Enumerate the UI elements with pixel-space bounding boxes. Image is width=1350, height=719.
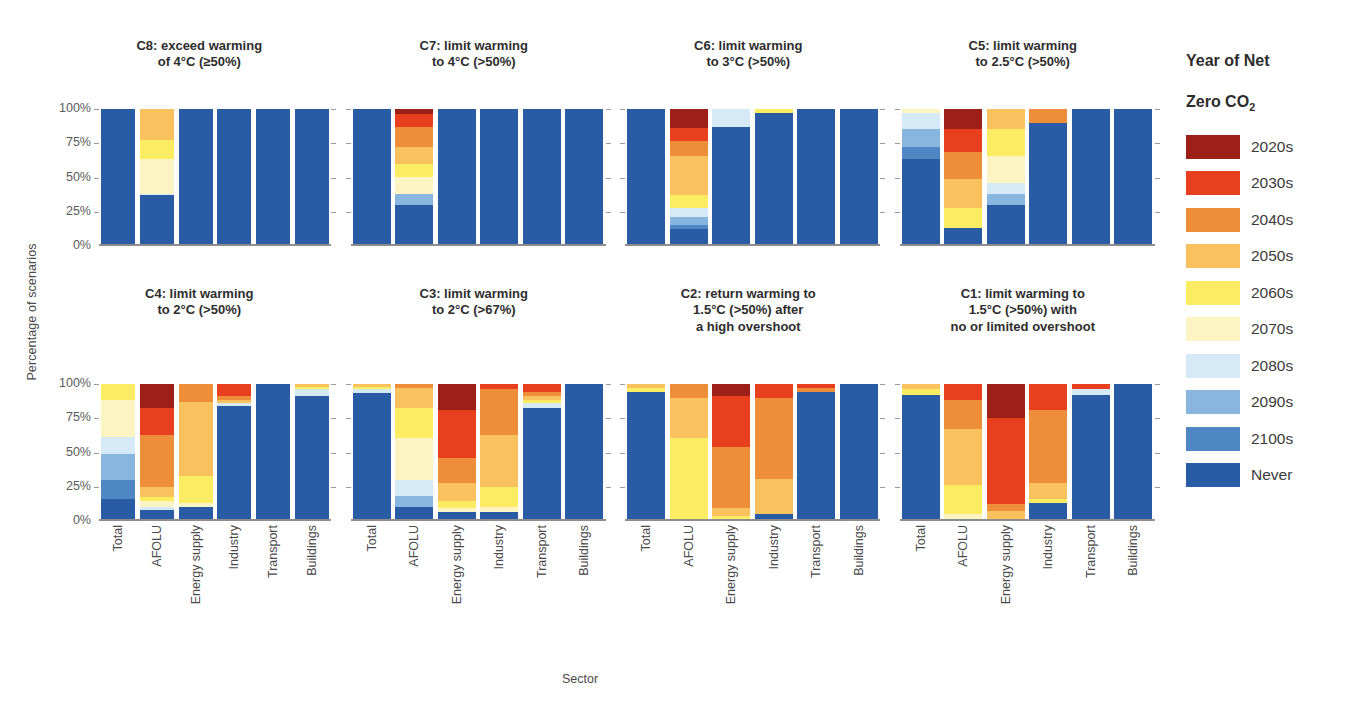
bar-segment-2090s (395, 496, 433, 507)
bar-slot (670, 384, 708, 519)
stacked-bar[interactable] (1114, 384, 1152, 519)
bar-slot (295, 384, 329, 519)
stacked-bar[interactable] (1029, 109, 1067, 244)
stacked-bar[interactable] (256, 384, 290, 519)
bar-segment-never (1114, 109, 1152, 244)
stacked-bar[interactable] (480, 109, 518, 244)
axis-tick-mark (880, 178, 885, 179)
stacked-bar[interactable] (944, 384, 982, 519)
stacked-bar[interactable] (670, 109, 708, 244)
stacked-bar[interactable] (179, 109, 213, 244)
legend-item-2060s[interactable]: 2060s (1186, 275, 1350, 312)
bar-segment-2060s (944, 485, 982, 513)
stacked-bar[interactable] (295, 384, 329, 519)
bar-segment-never (256, 109, 290, 244)
legend-item-2050s[interactable]: 2050s (1186, 238, 1350, 275)
axis-tick-mark (880, 143, 885, 144)
legend-item-2040s[interactable]: 2040s (1186, 202, 1350, 239)
axis-tick-mark (606, 453, 611, 454)
stacked-bar[interactable] (1072, 384, 1110, 519)
stacked-bar[interactable] (353, 109, 391, 244)
x-axis-ticks: TotalAFOLUEnergy supplyIndustryTransport… (351, 523, 606, 643)
bar-slot (1114, 109, 1152, 244)
bar-segment-2090s (902, 129, 940, 147)
bar-segment-2020s (987, 384, 1025, 418)
stacked-bar[interactable] (840, 109, 878, 244)
x-tick-label: Total (365, 525, 379, 551)
stacked-bar[interactable] (712, 384, 750, 519)
bar-slot (712, 384, 750, 519)
panel-C3: C3: limit warming to 2°C (>67%)TotalAFOL… (337, 280, 612, 580)
bar-slot (101, 109, 135, 244)
bar-group (99, 109, 331, 244)
stacked-bar[interactable] (353, 384, 391, 519)
plot-area-C3: TotalAFOLUEnergy supplyIndustryTransport… (351, 384, 606, 521)
stacked-bar[interactable] (755, 384, 793, 519)
stacked-bar[interactable] (712, 109, 750, 244)
bar-segment-2060s (712, 516, 750, 519)
stacked-bar[interactable] (565, 109, 603, 244)
stacked-bar[interactable] (395, 109, 433, 244)
stacked-bar[interactable] (902, 109, 940, 244)
stacked-bar[interactable] (295, 109, 329, 244)
stacked-bar[interactable] (987, 109, 1025, 244)
stacked-bar[interactable] (670, 384, 708, 519)
bar-segment-2050s (140, 109, 174, 140)
stacked-bar[interactable] (840, 384, 878, 519)
legend-item-2080s[interactable]: 2080s (1186, 348, 1350, 385)
stacked-bar[interactable] (1114, 109, 1152, 244)
stacked-bar[interactable] (523, 109, 561, 244)
bar-segment-2040s (944, 152, 982, 179)
stacked-bar[interactable] (256, 109, 290, 244)
legend-swatch-icon (1186, 390, 1240, 414)
stacked-bar[interactable] (1029, 384, 1067, 519)
stacked-bar[interactable] (797, 384, 835, 519)
stacked-bar[interactable] (902, 384, 940, 519)
stacked-bar[interactable] (217, 384, 251, 519)
stacked-bar[interactable] (438, 384, 476, 519)
stacked-bar[interactable] (565, 384, 603, 519)
stacked-bar[interactable] (101, 384, 135, 519)
legend-swatch-icon (1186, 281, 1240, 305)
bar-segment-2080s (295, 389, 329, 396)
panel-C4: C4: limit warming to 2°C (>50%)100%75%50… (62, 280, 337, 580)
legend-title-line1: Year of Net (1186, 52, 1270, 69)
bar-slot (987, 384, 1025, 519)
legend-item-2070s[interactable]: 2070s (1186, 311, 1350, 348)
plot-area-C6: TotalAFOLUEnergy supplyIndustryTransport… (625, 109, 880, 246)
panel-C6: C6: limit warming to 3°C (>50%)TotalAFOL… (611, 18, 886, 318)
stacked-bar[interactable] (523, 384, 561, 519)
stacked-bar[interactable] (395, 384, 433, 519)
axis-tick-mark (880, 109, 885, 110)
stacked-bar[interactable] (438, 109, 476, 244)
legend-item-2100s[interactable]: 2100s (1186, 421, 1350, 458)
panel-title-C8: C8: exceed warming of 4°C (≥50%) (62, 38, 337, 71)
legend-item-2030s[interactable]: 2030s (1186, 165, 1350, 202)
stacked-bar[interactable] (944, 109, 982, 244)
legend-item-2020s[interactable]: 2020s (1186, 129, 1350, 166)
stacked-bar[interactable] (1072, 109, 1110, 244)
bar-slot (140, 109, 174, 244)
stacked-bar[interactable] (140, 384, 174, 519)
legend-item-2090s[interactable]: 2090s (1186, 384, 1350, 421)
stacked-bar[interactable] (217, 109, 251, 244)
plot-area-C1: TotalAFOLUEnergy supplyIndustryTransport… (900, 384, 1155, 521)
bar-slot (797, 109, 835, 244)
stacked-bar[interactable] (755, 109, 793, 244)
stacked-bar[interactable] (480, 384, 518, 519)
stacked-bar[interactable] (627, 109, 665, 244)
stacked-bar[interactable] (101, 109, 135, 244)
stacked-bar[interactable] (627, 384, 665, 519)
x-tick-slot: Energy supply (438, 523, 476, 643)
stacked-bar[interactable] (987, 384, 1025, 519)
x-tick-slot: AFOLU (395, 523, 433, 643)
y-tick-label: 0% (73, 238, 91, 252)
bar-segment-2050s (987, 511, 1025, 519)
stacked-bar[interactable] (179, 384, 213, 519)
bar-segment-2060s (670, 438, 708, 519)
bar-slot (395, 384, 433, 519)
stacked-bar[interactable] (140, 109, 174, 244)
stacked-bar[interactable] (797, 109, 835, 244)
legend-item-never[interactable]: Never (1186, 457, 1350, 494)
bar-segment-never (217, 406, 251, 519)
